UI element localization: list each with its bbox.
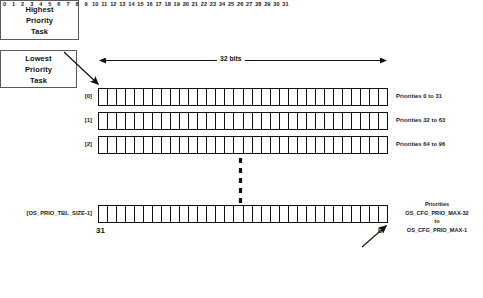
bitmap-cell	[162, 206, 171, 222]
bitmap-cell	[198, 113, 207, 129]
priority-range-last-line-3: to	[392, 217, 482, 226]
bitmap-cell	[144, 137, 153, 153]
bitmap-cell	[126, 137, 135, 153]
bitmap-cell	[352, 113, 361, 129]
bitmap-cell	[271, 113, 280, 129]
last-row-right-bit-number: 0	[378, 226, 382, 235]
bitmap-cell	[117, 89, 126, 105]
last-row-left-bit-number: 31	[96, 226, 105, 235]
bit-index-tick-29: 29	[263, 0, 272, 9]
bitmap-cell	[207, 137, 216, 153]
bitmap-cell	[171, 113, 180, 129]
bit-index-tick-0: 0	[0, 0, 9, 9]
bitmap-cell	[379, 206, 387, 222]
bit-index-tick-23: 23	[208, 0, 217, 9]
bitmap-cell	[379, 89, 387, 105]
bitmap-cell	[144, 89, 153, 105]
bitmap-cell	[307, 113, 316, 129]
bit-index-tick-20: 20	[181, 0, 190, 9]
bitmap-cell	[117, 113, 126, 129]
row-index-label-2: [2]	[60, 141, 92, 147]
bitmap-cell	[117, 206, 126, 222]
bit-index-tick-5: 5	[45, 0, 54, 9]
bitmap-cell	[234, 113, 243, 129]
bitmap-cell	[343, 89, 352, 105]
bitmap-cell	[126, 89, 135, 105]
bitmap-cell	[307, 89, 316, 105]
bitmap-cell	[216, 206, 225, 222]
bitmap-cell	[207, 113, 216, 129]
bitmap-cell	[198, 89, 207, 105]
bitmap-cell	[189, 137, 198, 153]
bit-index-tick-1: 1	[9, 0, 18, 9]
bitmap-cell	[99, 206, 108, 222]
bitmap-cell	[370, 206, 379, 222]
bitmap-cell	[352, 137, 361, 153]
bitmap-cell	[126, 206, 135, 222]
bit-index-tick-30: 30	[272, 0, 281, 9]
bitmap-cell	[153, 206, 162, 222]
priority-range-label-0: Priorities 0 to 31	[396, 93, 442, 99]
bitmap-cell	[108, 137, 117, 153]
bit-index-tick-28: 28	[254, 0, 263, 9]
bitmap-cell	[361, 89, 370, 105]
bitmap-cell	[189, 206, 198, 222]
bitmap-cell	[216, 113, 225, 129]
bitmap-cell	[225, 113, 234, 129]
bitmap-cell	[262, 137, 271, 153]
bitmap-cell	[189, 89, 198, 105]
bitmap-cell	[99, 137, 108, 153]
bitmap-cell	[153, 137, 162, 153]
bit-index-tick-2: 2	[18, 0, 27, 9]
bitmap-cell	[135, 89, 144, 105]
bitmap-cell	[325, 89, 334, 105]
bitmap-cell	[325, 137, 334, 153]
bitmap-cell	[289, 89, 298, 105]
bitmap-cell	[262, 89, 271, 105]
bitmap-cell	[108, 206, 117, 222]
bit-index-tick-10: 10	[91, 0, 100, 9]
bitmap-cell	[153, 89, 162, 105]
bitmap-cell	[144, 206, 153, 222]
bitmap-cell	[216, 89, 225, 105]
bitmap-cell	[352, 206, 361, 222]
bit-index-tick-27: 27	[245, 0, 254, 9]
bitmap-cell	[253, 137, 262, 153]
bitmap-cell	[244, 206, 253, 222]
bit-index-tick-6: 6	[54, 0, 63, 9]
bitmap-cell	[352, 89, 361, 105]
bitmap-cell	[289, 113, 298, 129]
bitmap-cell	[298, 113, 307, 129]
bitmap-cell	[280, 137, 289, 153]
diagram-canvas: Highest Priority Task 32 bits 0123456789…	[0, 0, 483, 298]
bit-index-tick-16: 16	[145, 0, 154, 9]
bitmap-cell	[126, 113, 135, 129]
bit-index-tick-4: 4	[36, 0, 45, 9]
bit-index-tick-22: 22	[199, 0, 208, 9]
bitmap-cell	[307, 137, 316, 153]
bitmap-cell	[298, 206, 307, 222]
bitmap-cell	[325, 113, 334, 129]
bitmap-cell	[361, 113, 370, 129]
bitmap-cell	[162, 137, 171, 153]
bitmap-row-last	[98, 205, 388, 223]
priority-range-last-line-1: Priorities	[392, 200, 482, 209]
bit-index-tick-17: 17	[154, 0, 163, 9]
bitmap-cell	[307, 206, 316, 222]
bit-index-tick-26: 26	[236, 0, 245, 9]
bitmap-cell	[379, 137, 387, 153]
bitmap-cell	[298, 137, 307, 153]
bit-index-tick-24: 24	[218, 0, 227, 9]
bitmap-cell	[108, 113, 117, 129]
bitmap-cell	[162, 113, 171, 129]
bitmap-cell	[153, 113, 162, 129]
bitmap-cell	[361, 137, 370, 153]
bitmap-cell	[334, 113, 343, 129]
priority-range-last-line-2: OS_CFG_PRIO_MAX-32	[392, 209, 482, 218]
bitmap-cell	[225, 137, 234, 153]
bitmap-cell	[289, 137, 298, 153]
bit-index-tick-18: 18	[163, 0, 172, 9]
bitmap-cell	[135, 137, 144, 153]
bitmap-cell	[262, 206, 271, 222]
bitmap-cell	[135, 113, 144, 129]
